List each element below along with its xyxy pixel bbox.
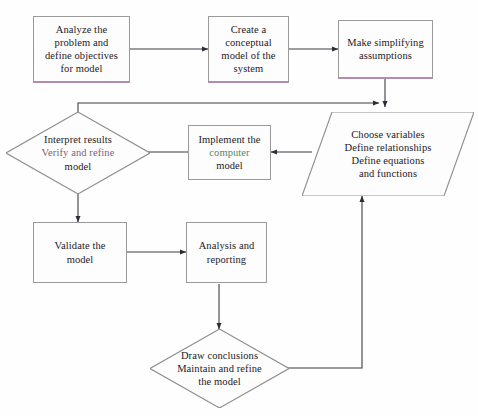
node-analysis-reporting-label: Analysis and reporting bbox=[196, 239, 258, 265]
node-make-assumptions[interactable]: Make simplifying assumptions bbox=[338, 20, 433, 79]
node-conceptual-model[interactable]: Create a conceptual model of the system bbox=[208, 16, 289, 83]
node-analyze-problem[interactable]: Analyze the problem and define objective… bbox=[33, 16, 130, 83]
node-choose-variables[interactable]: Choose variables Define relationships De… bbox=[302, 112, 474, 196]
node-make-assumptions-label: Make simplifying assumptions bbox=[344, 36, 427, 62]
node-conceptual-model-label: Create a conceptual model of the system bbox=[218, 23, 278, 76]
node-draw-conclusions-label: Draw conclusions Maintain and refine the… bbox=[160, 349, 280, 389]
node-validate-model-label: Validate the model bbox=[51, 239, 108, 265]
node-implement-computer-model-label: Implement the computer model bbox=[195, 133, 263, 173]
node-choose-variables-label: Choose variables Define relationships De… bbox=[319, 128, 457, 181]
node-analyze-problem-label: Analyze the problem and define objective… bbox=[42, 23, 121, 76]
node-implement-computer-model[interactable]: Implement the computer model bbox=[188, 125, 271, 180]
flowchart-canvas: Analyze the problem and define objective… bbox=[0, 0, 478, 416]
node-interpret-results[interactable]: Interpret results Verify and refine mode… bbox=[6, 112, 150, 194]
edge-conclusions-to-variables bbox=[288, 196, 362, 368]
node-validate-model[interactable]: Validate the model bbox=[33, 222, 127, 283]
node-analysis-reporting[interactable]: Analysis and reporting bbox=[186, 222, 267, 283]
node-interpret-results-label: Interpret results Verify and refine mode… bbox=[16, 133, 140, 173]
node-draw-conclusions[interactable]: Draw conclusions Maintain and refine the… bbox=[150, 329, 289, 408]
